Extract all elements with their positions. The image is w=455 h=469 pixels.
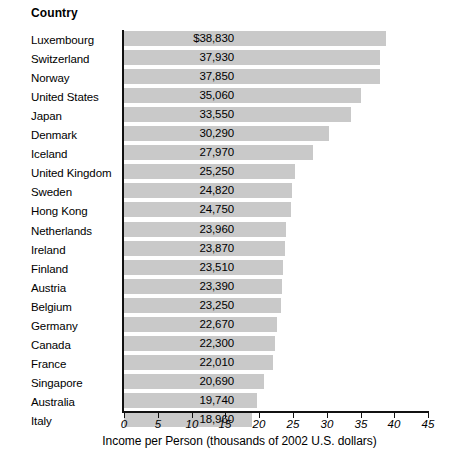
chart-row: Germany22,670	[0, 317, 455, 336]
value-label: 33,550	[124, 107, 234, 122]
category-label: Netherlands	[31, 223, 123, 240]
chart-row: Finland23,510	[0, 260, 455, 279]
value-label: 19,740	[124, 393, 234, 408]
chart-row: United Kingdom25,250	[0, 164, 455, 183]
category-label: Norway	[31, 70, 123, 87]
value-label: 20,690	[124, 374, 234, 389]
value-label: 37,850	[124, 69, 234, 84]
chart-row: Switzerland37,930	[0, 50, 455, 69]
value-label: 22,300	[124, 336, 234, 351]
value-label: 27,970	[124, 145, 234, 160]
category-label: Iceland	[31, 146, 123, 163]
value-label: 23,510	[124, 260, 234, 275]
x-axis-title: Income per Person (thousands of 2002 U.S…	[0, 433, 455, 449]
chart-row: Ireland23,870	[0, 241, 455, 260]
value-label: 24,820	[124, 183, 234, 198]
chart-row: Sweden24,820	[0, 183, 455, 202]
value-label: 22,670	[124, 317, 234, 332]
chart-row: Austria23,390	[0, 279, 455, 298]
chart-row: Iceland27,970	[0, 145, 455, 164]
category-label: Luxembourg	[31, 32, 123, 49]
category-label: Denmark	[31, 127, 123, 144]
value-label: 23,870	[124, 241, 234, 256]
category-label: United Kingdom	[31, 165, 123, 182]
chart-row: Luxembourg$38,830	[0, 31, 455, 50]
income-per-person-bar-chart: Country Luxembourg$38,830Switzerland37,9…	[0, 0, 455, 469]
chart-row: Netherlands23,960	[0, 222, 455, 241]
chart-row: Hong Kong24,750	[0, 202, 455, 221]
value-label: 37,930	[124, 50, 234, 65]
value-label: 23,390	[124, 279, 234, 294]
chart-row: Japan33,550	[0, 107, 455, 126]
chart-row: Canada22,300	[0, 336, 455, 355]
category-label: Japan	[31, 108, 123, 125]
category-label: Finland	[31, 261, 123, 278]
category-label: Ireland	[31, 242, 123, 259]
chart-row: Singapore20,690	[0, 374, 455, 393]
category-label: Hong Kong	[31, 203, 123, 220]
category-label: Austria	[31, 280, 123, 297]
y-axis-line	[122, 30, 124, 412]
category-column-header: Country	[31, 6, 78, 21]
category-label: Germany	[31, 318, 123, 335]
category-label: France	[31, 356, 123, 373]
value-label: 30,290	[124, 126, 234, 141]
x-axis-line	[122, 411, 429, 413]
chart-row: France22,010	[0, 355, 455, 374]
category-label: Sweden	[31, 184, 123, 201]
chart-row: United States35,060	[0, 88, 455, 107]
value-label: 23,960	[124, 222, 234, 237]
category-label: Belgium	[31, 299, 123, 316]
value-label: 22,010	[124, 355, 234, 370]
chart-row: Denmark30,290	[0, 126, 455, 145]
category-label: Singapore	[31, 375, 123, 392]
x-axis-tick-label: 45	[408, 417, 448, 431]
plot-area: Luxembourg$38,830Switzerland37,930Norway…	[0, 31, 455, 411]
category-label: Australia	[31, 394, 123, 411]
value-label: 35,060	[124, 88, 234, 103]
value-label: 24,750	[124, 202, 234, 217]
chart-row: Norway37,850	[0, 69, 455, 88]
category-label: Switzerland	[31, 51, 123, 68]
value-label: 25,250	[124, 164, 234, 179]
value-label: $38,830	[124, 31, 234, 46]
chart-row: Belgium23,250	[0, 298, 455, 317]
category-label: Canada	[31, 337, 123, 354]
category-label: United States	[31, 89, 123, 106]
chart-row: Australia19,740	[0, 393, 455, 412]
value-label: 23,250	[124, 298, 234, 313]
